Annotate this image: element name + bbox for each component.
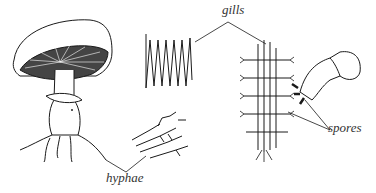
spores-label: spores	[328, 120, 361, 136]
gill-cross-section	[240, 40, 294, 162]
gills-zigzag	[146, 34, 192, 88]
mushroom-illustration	[13, 20, 112, 162]
diagram-drawing	[0, 0, 376, 193]
gills-label: gills	[222, 2, 244, 18]
basidium	[292, 52, 360, 104]
hyphae-label: hyphae	[106, 170, 144, 186]
hyphae-network	[132, 112, 188, 158]
mushroom-diagram: gills hyphae spores	[0, 0, 376, 193]
